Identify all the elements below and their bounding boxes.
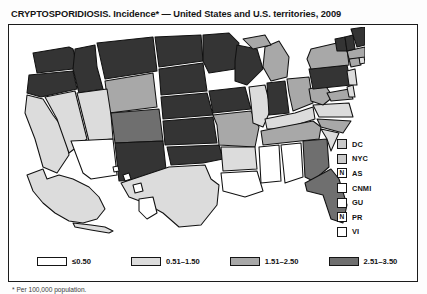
region-iowa: [209, 87, 251, 113]
scale-swatch-band-3: [230, 257, 260, 266]
us-map-svg: [13, 27, 365, 241]
region-kansas: [163, 117, 217, 145]
region-oklahoma: [167, 145, 223, 165]
territory-label-as: AS: [352, 169, 362, 178]
scale-legend-item: 2.51–3.50: [329, 257, 398, 266]
region-alabama: [281, 143, 303, 183]
region-northdakota: [155, 35, 203, 67]
scale-legend-item: 1.51–2.50: [230, 257, 299, 266]
territory-label-dc: DC: [352, 140, 363, 149]
territory-legend-item: VI: [337, 225, 399, 240]
territory-swatch-vi: [337, 227, 347, 237]
region-ohio: [287, 77, 313, 111]
territory-label-vi: VI: [352, 227, 359, 236]
territory-legend-item: CNMI: [337, 181, 399, 196]
region-colorado: [111, 109, 163, 143]
territory-swatch-pr: N: [337, 212, 347, 222]
territory-swatch-nyc: [337, 154, 347, 164]
territory-swatch-cnmi: [337, 183, 347, 193]
territory-label-cnmi: CNMI: [352, 184, 371, 193]
region-indiana: [267, 81, 289, 115]
scale-swatch-band-2: [131, 257, 161, 266]
scale-label-band-4: 2.51–3.50: [364, 257, 398, 266]
region-delaware: [347, 85, 355, 97]
territory-legend-item: DC: [337, 137, 399, 152]
scale-swatch-band-1: [37, 257, 67, 266]
region-washington: [33, 47, 76, 73]
region-hawaii-4: [139, 197, 157, 219]
territory-label-gu: GU: [352, 198, 363, 207]
figure-page: CRYPTOSPORIDIOSIS. Incidence* — United S…: [0, 0, 427, 294]
region-arkansas: [221, 147, 257, 171]
region-hawaii-3: [133, 183, 143, 193]
figure-frame: DC NYC N AS CNMI GU N PR: [8, 24, 418, 282]
region-hawaii-2: [123, 173, 131, 181]
scale-swatch-band-4: [329, 257, 359, 266]
region-mississippi: [259, 145, 281, 183]
territory-swatch-dc: [337, 139, 347, 149]
page-title: CRYPTOSPORIDIOSIS. Incidence* — United S…: [11, 9, 416, 19]
territory-legend-item: N AS: [337, 166, 399, 181]
incidence-scale-legend: ≤0.50 0.51–1.50 1.51–2.50 2.51–3.50 ≥3.5…: [9, 253, 417, 269]
region-newjersey: [347, 69, 357, 85]
region-arizona: [71, 139, 117, 179]
region-michigan: [263, 41, 289, 81]
scale-legend-item: 0.51–1.50: [131, 257, 200, 266]
region-nebraska: [161, 93, 213, 119]
region-idaho: [73, 45, 103, 93]
region-louisiana: [221, 171, 263, 197]
territory-label-pr: PR: [352, 213, 362, 222]
territory-legend: DC NYC N AS CNMI GU N PR: [337, 137, 399, 239]
territory-label-nyc: NYC: [352, 154, 368, 163]
region-southdakota: [159, 63, 207, 95]
scale-label-band-3: 1.51–2.50: [265, 257, 299, 266]
region-minnesota: [203, 33, 239, 73]
region-alaska-aleutians: [73, 223, 113, 233]
region-hawaii-1: [113, 166, 119, 172]
scale-label-band-2: 0.51–1.50: [166, 257, 200, 266]
territory-swatch-gu: [337, 198, 347, 208]
figure-footnote: * Per 100,000 population.: [12, 286, 312, 294]
territory-legend-item: GU: [337, 195, 399, 210]
scale-legend-item: ≤0.50: [37, 257, 91, 266]
territory-swatch-as: N: [337, 168, 347, 178]
region-virginia: [313, 103, 353, 117]
region-montana: [97, 37, 157, 79]
territory-legend-item: NYC: [337, 152, 399, 167]
scale-label-band-1: ≤0.50: [72, 257, 91, 266]
region-wisconsin: [235, 45, 263, 85]
territory-legend-item: N PR: [337, 210, 399, 225]
region-wyoming: [105, 73, 157, 113]
